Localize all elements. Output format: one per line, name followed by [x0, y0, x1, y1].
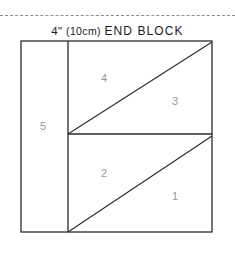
- piece-label-5: 5: [40, 120, 46, 132]
- end-block-diagram: [0, 0, 235, 253]
- block-outline: [21, 41, 212, 232]
- piece-label-1: 1: [172, 190, 178, 202]
- piece-label-2: 2: [101, 167, 107, 179]
- piece-label-3: 3: [172, 95, 178, 107]
- lower-diagonal-line: [68, 136, 212, 232]
- piece-label-4: 4: [101, 72, 107, 84]
- upper-diagonal-line: [68, 42, 212, 134]
- block-pattern-page: 4" (10cm) END BLOCK 4 3 5 2 1: [0, 0, 235, 253]
